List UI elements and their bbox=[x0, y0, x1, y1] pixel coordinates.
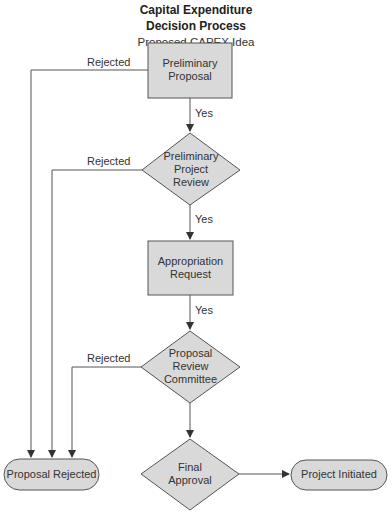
final-approval-text: Final Approval bbox=[141, 461, 239, 487]
node-label-line: Project bbox=[142, 163, 240, 176]
node-label-line: Proposal bbox=[148, 70, 232, 83]
node-label-line: Final bbox=[141, 461, 239, 474]
node-label-line: Proposal bbox=[141, 347, 240, 360]
appropriation-request-text: Appropriation Request bbox=[148, 255, 233, 281]
preliminary-proposal-text: Preliminary Proposal bbox=[148, 57, 232, 83]
node-label-line: Preliminary bbox=[142, 150, 240, 163]
node-label-line: Approval bbox=[141, 474, 239, 487]
proposal-review-committee-text: Proposal Review Committee bbox=[141, 347, 240, 386]
edge-rejected-3 bbox=[72, 367, 141, 457]
edge-rejected-1 bbox=[31, 70, 148, 457]
edge-label-yes-1: Yes bbox=[195, 107, 213, 120]
edge-label-rejected-2: Rejected bbox=[87, 155, 130, 168]
edge-label-rejected-3: Rejected bbox=[87, 352, 130, 365]
node-label-line: Request bbox=[148, 268, 233, 281]
node-label-line: Review bbox=[142, 176, 240, 189]
project-initiated-text: Project Initiated bbox=[291, 468, 387, 481]
edge-label-yes-2: Yes bbox=[195, 213, 213, 226]
node-label-line: Committee bbox=[141, 373, 240, 386]
edge-rejected-2 bbox=[52, 170, 142, 457]
preliminary-project-review-text: Preliminary Project Review bbox=[142, 150, 240, 189]
node-label-line: Review bbox=[141, 360, 240, 373]
proposal-rejected-text: Proposal Rejected bbox=[4, 468, 99, 481]
edge-label-yes-3: Yes bbox=[195, 304, 213, 317]
node-label-line: Preliminary bbox=[148, 57, 232, 70]
edge-label-rejected-1: Rejected bbox=[87, 56, 130, 69]
node-label-line: Appropriation bbox=[148, 255, 233, 268]
